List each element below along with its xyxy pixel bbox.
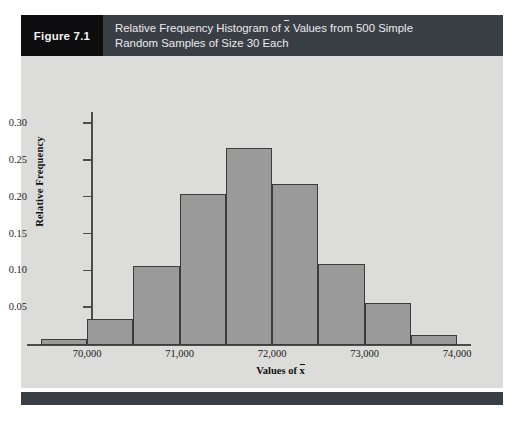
y-axis-tick-label: 0.05 [0, 301, 27, 312]
xbar-symbol-title: x [284, 21, 290, 36]
figure-container: Figure 7.1 Relative Frequency Histogram … [0, 0, 524, 425]
histogram-bar [87, 319, 133, 345]
y-axis-tick-label: 0.15 [0, 228, 27, 239]
histogram-chart: 0.050.100.150.200.250.30 70,00071,00072,… [21, 56, 503, 388]
figure-title-text: Relative Frequency Histogram of x Values… [115, 21, 413, 50]
figure-title-part-2: Values from 500 Simple [290, 22, 413, 34]
x-axis-tick-label: 72,000 [242, 348, 302, 359]
x-axis-tick-label: 74,000 [427, 348, 487, 359]
y-axis-tick-label: 0.30 [0, 117, 27, 128]
y-axis-tick-label: 0.10 [0, 264, 27, 275]
figure-footer-bar [21, 392, 503, 405]
histogram-bar [133, 266, 179, 345]
xbar-symbol-axis: x [300, 365, 305, 376]
histogram-bar [226, 148, 272, 345]
histogram-bar [272, 184, 318, 345]
figure-header-bar: Figure 7.1 Relative Frequency Histogram … [21, 15, 503, 56]
figure-title-box: Relative Frequency Histogram of x Values… [103, 15, 503, 56]
y-axis-tick-label: 0.25 [0, 154, 27, 165]
figure-number-box: Figure 7.1 [21, 15, 103, 56]
histogram-bar [41, 339, 87, 345]
histogram-bar [365, 303, 411, 345]
histogram-bar [180, 194, 226, 345]
y-axis-tick-label: 0.20 [0, 191, 27, 202]
x-axis-tick-label: 71,000 [150, 348, 210, 359]
x-axis-title-text: Values of [256, 365, 299, 376]
plot-panel: 0.050.100.150.200.250.30 70,00071,00072,… [21, 56, 503, 388]
histogram-bar [411, 335, 457, 345]
figure-number-label: Figure 7.1 [34, 30, 90, 42]
x-axis-title: Values of x [91, 365, 470, 376]
y-axis-title: Relative Frequency [34, 102, 45, 262]
histogram-bars-layer [27, 112, 471, 345]
figure-title-part-3: Random Samples of Size 30 Each [115, 37, 289, 49]
figure-title-part-1: Relative Frequency Histogram of [115, 22, 284, 34]
x-axis-tick-label: 73,000 [335, 348, 395, 359]
x-axis-tick-label: 70,000 [57, 348, 117, 359]
histogram-bar [318, 264, 364, 345]
